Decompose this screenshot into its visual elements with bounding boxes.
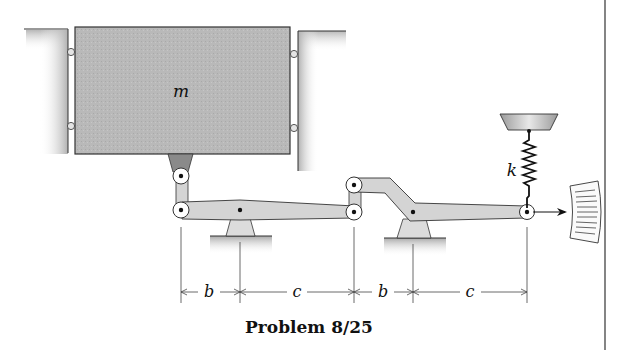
roller-icon (290, 50, 297, 57)
mass-block: m (75, 27, 290, 154)
dimension-label-b1: b (204, 282, 214, 301)
pointer-arrow-icon (533, 208, 567, 216)
roller-icon (290, 124, 297, 131)
right-pivot-support (384, 219, 446, 256)
scale-dial (570, 181, 601, 243)
left-pivot-support (210, 218, 272, 254)
roller-icon (67, 122, 74, 129)
right-bent-lever (355, 178, 527, 221)
mechanism-diagram: m (0, 0, 618, 350)
dimension-label-c1: c (293, 282, 302, 301)
spring-constant-label: k (507, 160, 517, 180)
dimension-label-c2: c (466, 282, 475, 301)
spring-ceiling-mount (500, 114, 558, 133)
left-lever (182, 200, 355, 220)
figure-caption: Problem 8/25 (245, 317, 373, 337)
roller-icon (67, 48, 74, 55)
dimension-label-b2: b (378, 282, 388, 301)
right-wall (298, 31, 346, 171)
spring-icon (523, 131, 535, 208)
left-wall (24, 29, 68, 154)
mass-label: m (173, 81, 189, 101)
